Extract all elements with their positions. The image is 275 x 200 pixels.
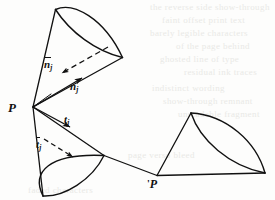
label-point-p-prime-text: P <box>150 178 157 190</box>
right-cone <box>157 113 265 176</box>
lower-cone-rim-far <box>39 155 104 196</box>
label-vector-n-bar-j: n j <box>44 59 52 70</box>
label-vector-n-j: nj <box>70 81 78 92</box>
vector-t-bar-j <box>44 139 73 157</box>
label-t-bar-subscript: j <box>39 143 41 152</box>
label-point-p: P <box>8 101 16 114</box>
overbar-glyph <box>44 57 51 58</box>
label-vector-t-bar-j: t j <box>36 139 41 150</box>
connecting-line-p-to-pprime <box>104 156 157 176</box>
lower-cone-rim-near <box>43 156 104 197</box>
overbar-glyph <box>36 137 40 138</box>
right-cone-rim-near <box>191 113 265 173</box>
label-vector-t-j: tj <box>64 114 69 125</box>
label-point-p-text: P <box>8 101 16 114</box>
lower-cone-generatrix-left <box>33 107 43 196</box>
label-t-subscript: j <box>67 118 69 127</box>
cone-diagram <box>0 0 275 200</box>
right-cone-rim-far <box>191 113 265 173</box>
right-cone-generatrix-lower <box>157 173 265 176</box>
figure-canvas: the reverse side show-through faint offs… <box>0 0 275 200</box>
right-cone-generatrix-upper <box>157 113 191 176</box>
label-point-p-prime: 'P <box>147 178 157 190</box>
upper-cone-rim-far <box>56 8 123 58</box>
